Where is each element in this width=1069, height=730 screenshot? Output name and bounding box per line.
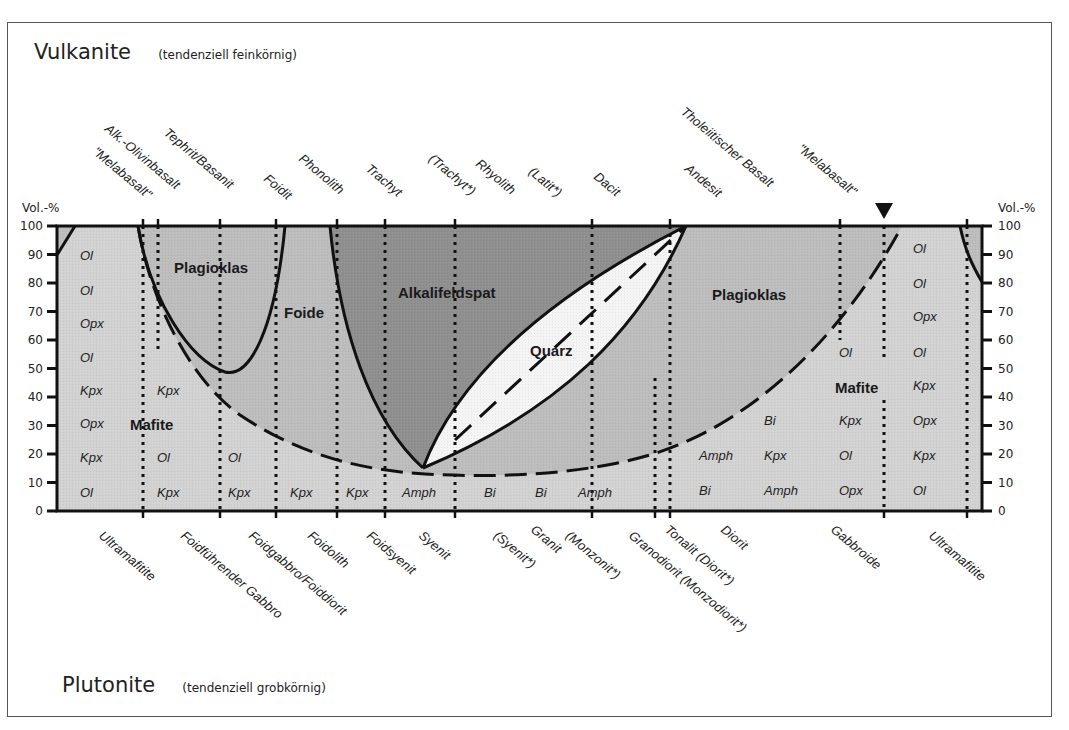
mineral-monzonit: Amph xyxy=(577,485,612,500)
svg-text:70: 70 xyxy=(998,305,1013,319)
svg-text:0: 0 xyxy=(35,504,43,518)
svg-text:50: 50 xyxy=(998,362,1013,376)
plutonic-rock-names: Ultramafitite Foidführender Gabbro Foidg… xyxy=(96,522,989,635)
svg-text:Opx: Opx xyxy=(913,413,937,428)
mineral-foidolith: Kpx xyxy=(290,485,313,500)
svg-text:Bi: Bi xyxy=(699,483,712,498)
svg-text:Amph: Amph xyxy=(763,483,798,498)
svg-text:Kpx: Kpx xyxy=(913,378,936,393)
svg-text:Kpx: Kpx xyxy=(157,383,180,398)
volcanic-name: Trachyt xyxy=(363,161,406,201)
svg-text:Ol: Ol xyxy=(80,248,94,263)
svg-text:0: 0 xyxy=(998,504,1006,518)
svg-text:60: 60 xyxy=(998,333,1013,347)
svg-text:Opx: Opx xyxy=(913,309,937,324)
volcanic-name: (Latit*) xyxy=(526,164,565,200)
svg-text:Opx: Opx xyxy=(80,416,104,431)
svg-text:Ol: Ol xyxy=(80,485,94,500)
svg-text:Kpx: Kpx xyxy=(764,448,787,463)
plutonic-name: Ultramafitite xyxy=(926,528,989,584)
region-plagioklas-left: Plagioklas xyxy=(174,259,248,276)
svg-text:20: 20 xyxy=(28,447,43,461)
svg-text:Ol: Ol xyxy=(80,350,94,365)
region-plagioklas-right: Plagioklas xyxy=(712,286,786,303)
left-axis-label: Vol.-% xyxy=(22,201,60,215)
svg-text:Bi: Bi xyxy=(764,413,777,428)
volcanic-rock-names: "Melabasalt" Alk.-Olivinbasalt Tephrit/B… xyxy=(90,104,861,204)
volcanic-name: Andesit xyxy=(681,160,726,201)
region-foide: Foide xyxy=(284,304,324,321)
svg-text:60: 60 xyxy=(28,333,43,347)
svg-text:Ol: Ol xyxy=(80,283,94,298)
svg-text:Amph: Amph xyxy=(698,448,733,463)
plutonic-name: Foidolith xyxy=(305,528,352,571)
volcanic-name: Dacit xyxy=(591,169,624,200)
plutonic-name: Foidsyenit xyxy=(364,528,420,578)
svg-text:20: 20 xyxy=(998,447,1013,461)
svg-text:100: 100 xyxy=(998,219,1021,233)
svg-text:Kpx: Kpx xyxy=(228,485,251,500)
svg-text:Kpx: Kpx xyxy=(80,450,103,465)
svg-text:10: 10 xyxy=(28,476,43,490)
svg-text:80: 80 xyxy=(998,276,1013,290)
volcanic-name: Phonolith xyxy=(296,151,347,197)
volcanic-name: Rhyolith xyxy=(473,156,519,198)
svg-text:Kpx: Kpx xyxy=(80,383,103,398)
plutonic-name: Diorit xyxy=(718,522,752,554)
svg-text:80: 80 xyxy=(28,276,43,290)
region-quarz: Quarz xyxy=(530,342,573,359)
region-mafite-right: Mafite xyxy=(835,379,878,396)
svg-text:Ol: Ol xyxy=(228,450,242,465)
region-mafite-left: Mafite xyxy=(130,416,173,433)
svg-text:Kpx: Kpx xyxy=(157,485,180,500)
svg-text:40: 40 xyxy=(28,390,43,404)
svg-text:Ol: Ol xyxy=(839,345,853,360)
svg-text:Kpx: Kpx xyxy=(839,413,862,428)
svg-text:40: 40 xyxy=(998,390,1013,404)
mineral-granit-1: Bi xyxy=(484,485,497,500)
mineral-granit-2: Bi xyxy=(535,485,548,500)
volcanic-name: Foidit xyxy=(261,171,296,204)
svg-text:Ol: Ol xyxy=(157,450,171,465)
svg-text:Ol: Ol xyxy=(913,241,927,256)
plutonic-name: Syenit xyxy=(416,528,454,564)
plutonic-name: Granit xyxy=(528,522,566,557)
svg-text:100: 100 xyxy=(20,219,43,233)
svg-text:90: 90 xyxy=(28,248,43,262)
svg-text:Kpx: Kpx xyxy=(913,448,936,463)
svg-text:50: 50 xyxy=(28,362,43,376)
plutonic-name: Gabbroide xyxy=(828,522,884,573)
plutonic-name: Ultramafitite xyxy=(96,528,159,584)
right-axis-tick-labels: 0 10 20 30 40 50 60 70 80 90 100 xyxy=(998,219,1021,518)
svg-text:70: 70 xyxy=(28,305,43,319)
right-axis-label: Vol.-% xyxy=(998,201,1036,215)
volcanic-name: (Trachyt*) xyxy=(426,151,479,199)
svg-text:Opx: Opx xyxy=(839,483,863,498)
svg-text:Ol: Ol xyxy=(913,345,927,360)
rock-classification-diagram: Vol.-% Vol.-% 0 10 20 30 40 50 60 70 80 … xyxy=(0,0,1069,730)
svg-text:10: 10 xyxy=(998,476,1013,490)
svg-text:Ol: Ol xyxy=(839,448,853,463)
region-alkalifeldspat: Alkalifeldspat xyxy=(398,284,496,301)
left-axis-tick-labels: 0 10 20 30 40 50 60 70 80 90 100 xyxy=(20,219,43,518)
svg-text:30: 30 xyxy=(28,419,43,433)
svg-text:Opx: Opx xyxy=(80,316,104,331)
mineral-foidsyenit: Kpx xyxy=(346,485,369,500)
volcanic-name: "Melabasalt" xyxy=(795,141,861,200)
svg-text:Ol: Ol xyxy=(913,483,927,498)
melabasalt-marker-icon xyxy=(875,203,893,219)
plutonic-name: (Monzonit*) xyxy=(563,528,624,582)
svg-text:30: 30 xyxy=(998,419,1013,433)
svg-text:Ol: Ol xyxy=(913,276,927,291)
svg-text:90: 90 xyxy=(998,248,1013,262)
mineral-syenit: Amph xyxy=(401,485,436,500)
